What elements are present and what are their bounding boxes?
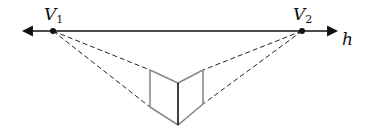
v1-label: V1 bbox=[44, 4, 63, 26]
v2-label: V2 bbox=[293, 4, 312, 26]
horizon-label: h bbox=[342, 29, 353, 49]
vanishing-point-1 bbox=[50, 28, 56, 34]
vanishing-point-2 bbox=[299, 28, 305, 34]
box-shape bbox=[150, 70, 203, 125]
perspective-diagram: V1 V2 h bbox=[0, 0, 367, 129]
